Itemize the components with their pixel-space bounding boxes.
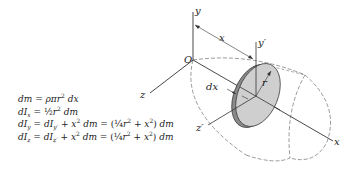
z-prime-label: z′ [196,123,204,133]
dx-label: dx [206,82,218,92]
equation-dIz: dIz = dIz′ + x2 dm = (¼r2 + x2) dm [18,131,174,144]
equation-dm: dm = ρπr2 dx [18,93,174,106]
equations-block: dm = ρπr2 dx dIx = ½r2 dm dIy = dIy′ + x… [18,93,174,143]
origin-label: O [184,55,192,65]
radius-label: r [262,78,267,88]
x-distance-label: x [219,33,225,43]
arrowhead-icon [248,55,253,59]
y-axis-label: y [195,6,201,16]
arrowhead-icon [195,25,200,29]
x-axis-label: x [334,137,340,147]
y-prime-label: y′ [258,38,266,48]
solid-of-revolution-diagram [0,0,354,170]
